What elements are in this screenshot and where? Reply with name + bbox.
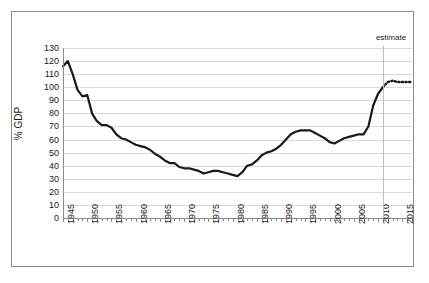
plot-area (63, 48, 412, 218)
x-tick (305, 218, 306, 222)
x-tick (281, 218, 282, 222)
y-axis-line (63, 48, 64, 219)
x-tick (325, 218, 326, 221)
y-tick-label: 120 (35, 57, 59, 66)
y-tick-label: 90 (35, 96, 59, 105)
x-tick (82, 218, 83, 221)
x-tick (131, 218, 132, 221)
x-tick (354, 218, 355, 222)
x-tick (78, 218, 79, 221)
x-tick (87, 218, 88, 222)
x-tick-label: 2000 (334, 204, 343, 224)
x-tick-label: 1965 (164, 204, 173, 224)
x-tick (402, 218, 403, 222)
x-tick (102, 218, 103, 221)
x-tick-label: 2015 (406, 204, 415, 224)
x-tick (320, 218, 321, 221)
y-tick-label: 0 (35, 214, 59, 223)
x-tick (368, 218, 369, 221)
x-tick (160, 218, 161, 222)
y-tick-label: 40 (35, 162, 59, 171)
x-tick-label: 1970 (188, 204, 197, 224)
x-tick (373, 218, 374, 221)
y-tick-label: 130 (35, 44, 59, 53)
x-tick (344, 218, 345, 221)
x-tick-label: 1975 (212, 204, 221, 224)
x-tick (252, 218, 253, 221)
x-tick (397, 218, 398, 221)
y-tick-label: 30 (35, 175, 59, 184)
x-tick (330, 218, 331, 222)
x-tick-label: 2005 (358, 204, 367, 224)
x-tick (174, 218, 175, 221)
y-tick-label: 50 (35, 149, 59, 158)
x-tick (257, 218, 258, 222)
x-tick (150, 218, 151, 221)
x-tick (208, 218, 209, 222)
estimate-annotation: estimate (376, 33, 406, 42)
x-tick-label: 1945 (67, 204, 76, 224)
y-tick-label: 110 (35, 70, 59, 79)
y-tick-label: 20 (35, 188, 59, 197)
x-tick (184, 218, 185, 222)
x-tick (393, 218, 394, 221)
x-tick (126, 218, 127, 221)
x-tick (247, 218, 248, 221)
line-historical (63, 61, 383, 176)
y-tick-label: 100 (35, 83, 59, 92)
x-tick (155, 218, 156, 221)
x-tick (228, 218, 229, 221)
data-series-layer (63, 48, 412, 218)
x-tick-label: 1995 (309, 204, 318, 224)
x-tick (271, 218, 272, 221)
x-tick (136, 218, 137, 222)
chart-figure: 1301201101009080706050403020100 % GDP 19… (0, 0, 429, 283)
x-tick (378, 218, 379, 222)
x-tick (223, 218, 224, 221)
estimate-divider-line (383, 46, 384, 218)
line-estimate (383, 81, 412, 88)
y-tick-label: 60 (35, 136, 59, 145)
x-tick (63, 218, 64, 222)
x-tick-label: 1980 (237, 204, 246, 224)
x-tick (179, 218, 180, 221)
y-tick-label: 70 (35, 122, 59, 131)
x-tick (276, 218, 277, 221)
x-tick-label: 1985 (261, 204, 270, 224)
x-tick (111, 218, 112, 222)
y-tick-label: 10 (35, 201, 59, 210)
x-tick (204, 218, 205, 221)
x-tick-label: 1950 (91, 204, 100, 224)
x-tick (301, 218, 302, 221)
x-tick (349, 218, 350, 221)
y-axis-title: % GDP (13, 94, 24, 154)
x-tick (296, 218, 297, 221)
y-axis-tick-labels: 1301201101009080706050403020100 (33, 0, 59, 283)
x-tick-label: 1990 (285, 204, 294, 224)
x-tick-label: 1960 (140, 204, 149, 224)
x-tick (199, 218, 200, 221)
y-tick-label: 80 (35, 109, 59, 118)
x-tick (233, 218, 234, 222)
x-tick (107, 218, 108, 221)
x-tick-label: 1955 (115, 204, 124, 224)
